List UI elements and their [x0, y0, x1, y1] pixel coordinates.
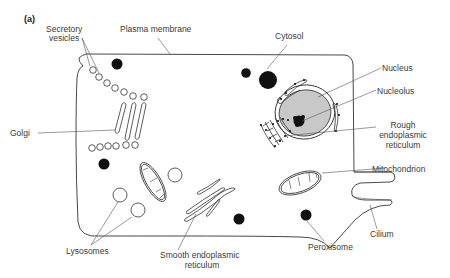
label-mitochondrion: Mitochondrion [372, 164, 425, 174]
label-secretory-vesicles-line2: vesicles [49, 33, 79, 43]
mitochondrion-left [135, 159, 171, 205]
label-smooth-er-line1: Smooth endoplasmic [160, 250, 239, 260]
label-rough-er-line1: Rough [378, 120, 428, 130]
mitochondrion-right [276, 166, 324, 200]
cell-diagram: (a) Secretory vesicles Plasma membrane C… [0, 0, 450, 278]
label-rough-er-line2: endoplasmic [368, 130, 438, 140]
label-smooth-er-line2: reticulum [160, 260, 244, 270]
label-golgi: Golgi [10, 128, 30, 138]
smooth-er [184, 179, 235, 221]
label-rough-er-line3: reticulum [373, 140, 433, 150]
nucleus [271, 80, 339, 144]
label-nucleus: Nucleus [382, 63, 413, 73]
cilium [352, 172, 392, 200]
label-cilium: Cilium [370, 229, 394, 239]
label-peroxisome: Peroxisome [308, 242, 353, 252]
label-plasma-membrane: Plasma membrane [120, 24, 191, 34]
golgi [115, 103, 146, 141]
label-nucleolus: Nucleolus [377, 86, 414, 96]
label-cytosol: Cytosol [275, 31, 303, 41]
label-lysosomes: Lysosomes [66, 246, 109, 256]
panel-label: (a) [24, 14, 35, 24]
